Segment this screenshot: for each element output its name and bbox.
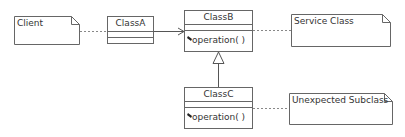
note-client-text: Client — [17, 18, 43, 29]
triangle-hollow-icon — [213, 52, 224, 64]
class-name-classB: ClassB — [184, 12, 253, 23]
operation-classB[interactable]: operation( ) — [192, 35, 245, 46]
operation-classC[interactable]: operation( ) — [192, 112, 245, 123]
class-name-classA: ClassA — [107, 18, 154, 29]
note-service-text: Service Class — [294, 16, 354, 27]
class-name-classC: ClassC — [184, 89, 253, 100]
note-unexpected-text: Unexpected Subclass — [292, 95, 388, 106]
